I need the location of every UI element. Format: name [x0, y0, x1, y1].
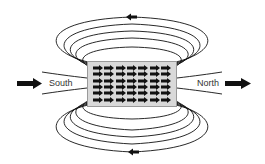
field-loop-bottom-1 — [56, 105, 208, 152]
field-loop-bottom-3 — [70, 103, 193, 137]
domain-arrow-right-icon — [138, 97, 149, 103]
north-pole-label: North — [197, 78, 219, 88]
domain-arrow-right-icon — [92, 97, 103, 103]
bar-magnet — [87, 61, 177, 107]
arrow-right-icon — [225, 78, 251, 89]
arrow-left-icon — [126, 14, 137, 21]
arrow-left-icon — [128, 149, 139, 156]
domain-arrow-right-icon — [126, 97, 137, 103]
domain-arrow-right-icon — [149, 97, 160, 103]
domain-arrow-right-icon — [115, 97, 126, 103]
domain-arrow-right-icon — [103, 97, 114, 103]
domain-arrow-right-icon — [161, 97, 172, 103]
field-loop-top-3 — [70, 31, 193, 64]
south-pole-label: South — [49, 78, 73, 88]
magnetic-field-diagram: South North — [0, 0, 265, 164]
arrow-right-icon — [17, 78, 42, 89]
field-loop-top-2 — [64, 24, 200, 63]
open-line-right-bottom — [177, 88, 222, 94]
open-line-left-bottom — [42, 88, 87, 94]
